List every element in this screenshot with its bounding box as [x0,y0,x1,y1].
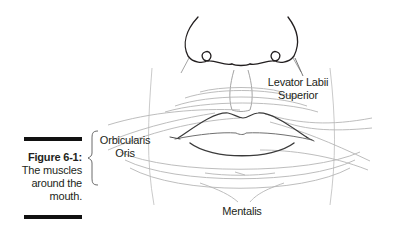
caption-line-3: mouth. [2,190,82,203]
lips [170,113,314,156]
label-levator-labii-superior: Levator Labii Superior [260,76,336,102]
caption-bottom-rule [24,215,82,219]
caption-line-2: around the [2,177,82,190]
caption-line-1: The muscles [2,164,82,177]
label-orbicularis-line-2: Oris [94,147,156,160]
label-mentalis: Mentalis [216,205,268,218]
label-levator-line-1: Levator Labii [260,76,336,89]
figure-number: Figure 6-1: [2,151,82,164]
caption-top-rule [24,137,82,141]
label-orbicularis-line-1: Orbicularis [94,134,156,147]
figure-caption: Figure 6-1: The muscles around the mouth… [2,151,82,203]
levator-leader-line [295,58,303,76]
label-orbicularis-oris: Orbicularis Oris [94,134,156,160]
nose [185,17,297,66]
label-levator-line-2: Superior [260,89,336,102]
